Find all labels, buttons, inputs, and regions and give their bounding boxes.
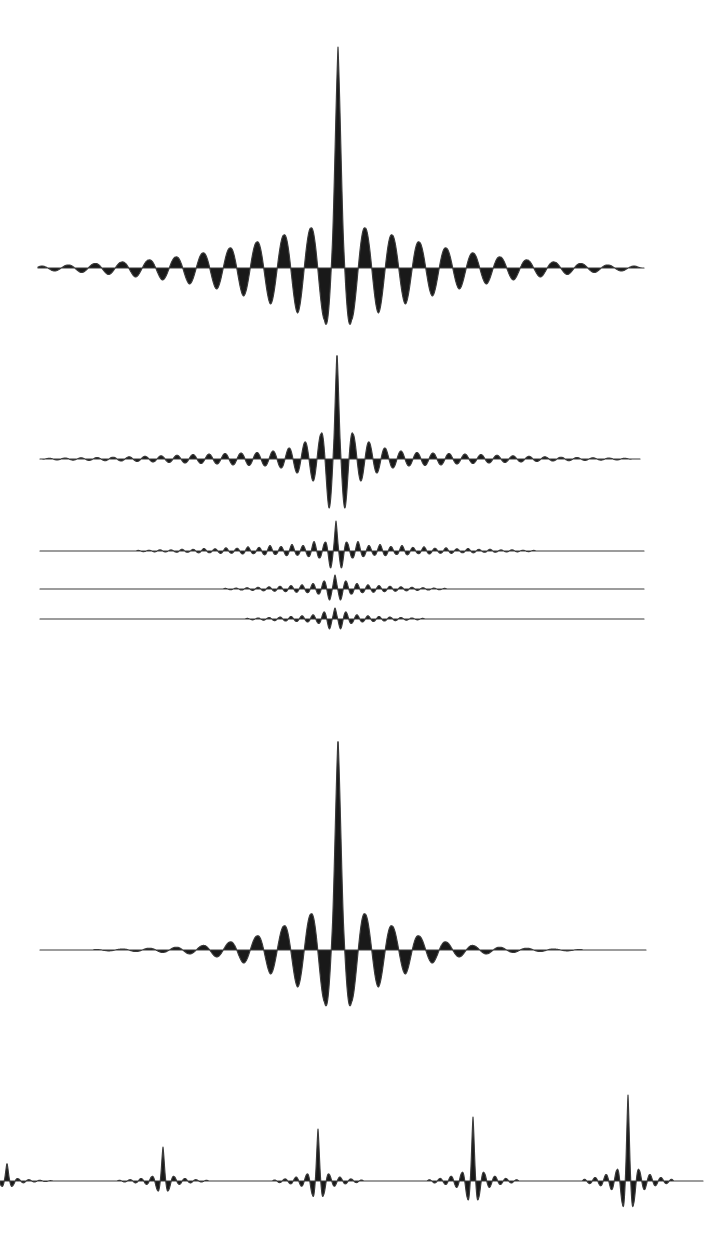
interferogram-large-clean <box>40 742 646 1006</box>
interferogram-large-wide-tails <box>38 47 644 324</box>
waveform-figure <box>0 0 721 1233</box>
interferogram-small-3 <box>40 608 644 629</box>
waveform-svg <box>0 0 721 1233</box>
interferogram-medium <box>40 356 640 508</box>
interferogram-small-1 <box>40 521 644 568</box>
scanned-page <box>0 0 721 1233</box>
interferogram-small-2 <box>40 575 644 600</box>
spike-train <box>0 1095 703 1207</box>
